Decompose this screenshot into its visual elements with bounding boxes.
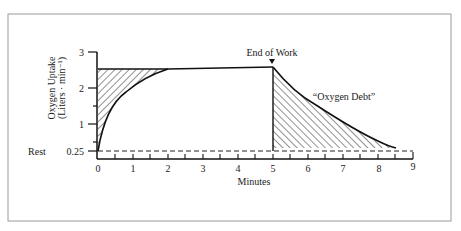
end-of-work-label: End of Work — [246, 47, 297, 58]
x-tick-label: 5 — [271, 163, 276, 174]
y-axis-title-line2: (Liters · min⁻¹) — [56, 57, 68, 119]
x-tick-label: 9 — [411, 161, 416, 172]
x-tick-label: 7 — [341, 163, 346, 174]
figure-frame — [8, 14, 451, 221]
x-ticks — [115, 152, 413, 159]
x-tick-label: 3 — [201, 163, 206, 174]
y-tick-label: 3 — [79, 47, 84, 58]
x-tick-label: 1 — [131, 163, 136, 174]
oxygen-debt-label: “Oxygen Debt” — [313, 91, 375, 102]
oxygen-debt-area — [273, 67, 396, 148]
y-tick-label: 0.25 — [67, 146, 85, 157]
x-tick-label: 8 — [377, 163, 382, 174]
rest-label: Rest — [28, 146, 46, 157]
y-tick-label: 2 — [79, 83, 84, 94]
oxygen-uptake-chart: 3 2 1 0.25 Rest 0 1 2 3 4 5 6 7 8 9 Minu… — [0, 0, 461, 231]
x-tick-label: 6 — [306, 163, 311, 174]
x-tick-label: 0 — [96, 163, 101, 174]
oxygen-deficit-area — [98, 69, 168, 151]
y-tick-label: 1 — [79, 119, 84, 130]
x-tick-label: 2 — [166, 163, 171, 174]
y-ticks — [88, 52, 97, 151]
x-axis-title: Minutes — [238, 176, 271, 187]
end-of-work-arrow-icon — [269, 59, 275, 64]
x-tick-label: 4 — [236, 163, 241, 174]
